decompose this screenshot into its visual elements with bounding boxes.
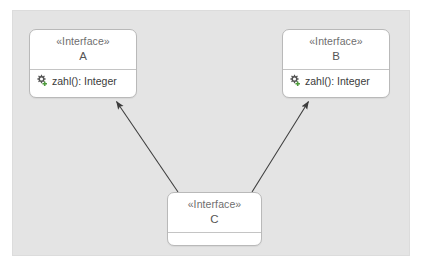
- operation-row[interactable]: zahl(): Integer: [288, 74, 370, 87]
- operation-row[interactable]: zahl(): Integer: [35, 74, 117, 87]
- class-a-operations: zahl(): Integer: [30, 70, 136, 91]
- gear-public-operation-icon: [288, 74, 301, 87]
- uml-class-a[interactable]: «Interface» A: [29, 29, 137, 98]
- gear-public-operation-icon: [35, 74, 48, 87]
- class-a-header: «Interface» A: [30, 30, 136, 69]
- class-c-operations: [168, 233, 261, 241]
- uml-class-c[interactable]: «Interface» C: [167, 192, 262, 246]
- operation-label: zahl(): Integer: [52, 75, 117, 87]
- class-a-stereotype: «Interface»: [30, 35, 136, 48]
- uml-class-diagram: «Interface» A: [0, 0, 423, 268]
- class-a-name: A: [30, 49, 136, 64]
- operation-label: zahl(): Integer: [305, 75, 370, 87]
- class-b-stereotype: «Interface»: [283, 35, 389, 48]
- class-c-stereotype: «Interface»: [168, 198, 261, 211]
- class-b-operations: zahl(): Integer: [283, 70, 389, 91]
- uml-class-b[interactable]: «Interface» B: [282, 29, 390, 98]
- class-c-name: C: [168, 212, 261, 227]
- class-b-header: «Interface» B: [283, 30, 389, 69]
- class-c-header: «Interface» C: [168, 193, 261, 232]
- class-b-name: B: [283, 49, 389, 64]
